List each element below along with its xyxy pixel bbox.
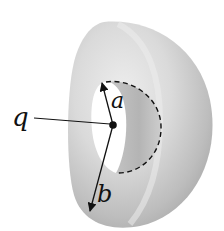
charge-label: q: [12, 104, 29, 130]
inner-radius-label: a: [111, 90, 124, 112]
spherical-shell-diagram: q a b: [0, 0, 224, 231]
point-charge-dot: [109, 121, 117, 129]
outer-radius-label: b: [97, 182, 112, 206]
